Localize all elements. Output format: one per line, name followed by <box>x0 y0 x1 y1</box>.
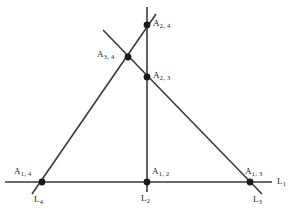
line-label-subscript-L3: 3 <box>259 198 263 205</box>
line-label-subscript-L2: 2 <box>147 197 151 204</box>
intersection-point-A-1-4 <box>39 179 46 186</box>
point-label-subscript-A14: 1, 4 <box>21 170 32 177</box>
point-label-subscript-A12: 1, 2 <box>159 170 170 177</box>
points-group <box>39 22 254 186</box>
figure-canvas <box>0 0 305 211</box>
point-label-subscript-A34: 3, 4 <box>104 53 115 60</box>
line-L4 <box>32 14 156 194</box>
point-label-A14: A1, 4 <box>14 167 32 176</box>
line-label-subscript-L4: 4 <box>40 198 44 205</box>
line-arrangement-figure: L1L2L3L4A2, 4A3, 4A2, 3A1, 4A1, 2A1, 3 <box>0 0 305 211</box>
line-label-L1: L1 <box>277 177 286 186</box>
line-label-L3: L3 <box>253 195 262 204</box>
lines-group <box>5 7 272 194</box>
point-label-A13: A1, 3 <box>245 167 263 176</box>
point-label-subscript-A24: 2, 4 <box>160 22 171 29</box>
point-label-subscript-A23: 2, 3 <box>160 74 171 81</box>
point-label-A34: A3, 4 <box>97 50 115 59</box>
point-label-A12: A1, 2 <box>152 167 170 176</box>
intersection-point-A-2-3 <box>144 74 151 81</box>
intersection-point-A-1-3 <box>247 179 254 186</box>
intersection-point-A-3-4 <box>125 54 132 61</box>
intersection-point-A-1-2 <box>144 179 151 186</box>
point-label-A24: A2, 4 <box>153 19 171 28</box>
line-label-L2: L2 <box>141 194 150 203</box>
point-label-subscript-A13: 1, 3 <box>252 170 263 177</box>
point-label-A23: A2, 3 <box>153 71 171 80</box>
line-label-subscript-L1: 1 <box>283 180 287 187</box>
line-label-L4: L4 <box>34 195 43 204</box>
intersection-point-A-2-4 <box>144 22 151 29</box>
